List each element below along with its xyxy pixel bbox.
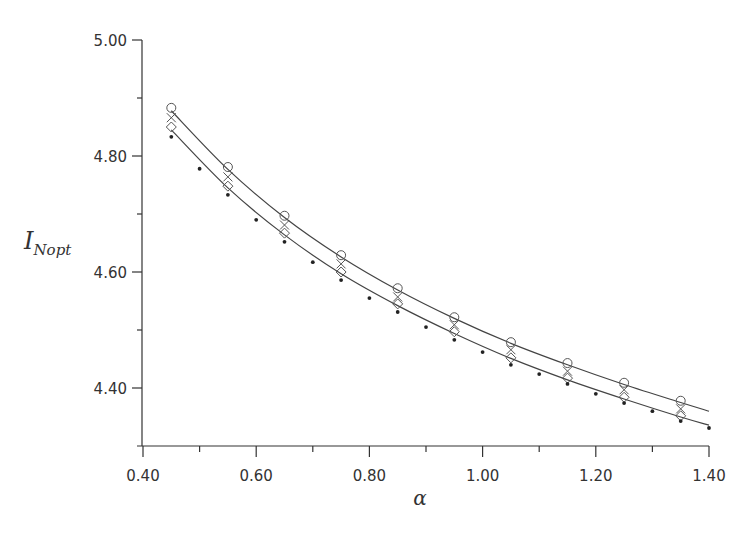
dot-marker <box>537 372 541 376</box>
dot-marker <box>254 218 258 222</box>
dot-marker <box>509 363 513 367</box>
cross-marker <box>223 172 232 181</box>
y-tick-label: 5.00 <box>94 32 127 50</box>
diamond-marker <box>280 228 290 238</box>
y-tick-label: 4.60 <box>94 264 127 282</box>
y-axis-title: INopt <box>23 227 72 259</box>
x-tick-label: 0.60 <box>239 467 272 485</box>
dot-marker <box>622 401 626 405</box>
diamond-marker <box>223 181 233 191</box>
dot-marker <box>594 392 598 396</box>
y-axis-title-subscript: Nopt <box>32 241 72 259</box>
x-tick-label: 0.80 <box>353 467 386 485</box>
data-markers <box>166 103 711 430</box>
dot-marker <box>226 193 230 197</box>
y-tick-label: 4.40 <box>94 380 127 398</box>
dot-marker <box>566 382 570 386</box>
dot-marker <box>198 167 202 171</box>
dot-marker <box>368 296 372 300</box>
dot-marker <box>707 426 711 430</box>
dot-marker <box>396 310 400 314</box>
cross-marker <box>167 113 176 122</box>
upper-fit-curve <box>171 111 709 411</box>
y-axis-title-main: I <box>23 227 34 255</box>
fit-curves <box>171 111 709 425</box>
x-axis-title: α <box>413 486 427 510</box>
circle-marker <box>676 396 685 405</box>
y-tick-label: 4.80 <box>94 148 127 166</box>
dot-marker <box>169 135 173 139</box>
dot-marker <box>481 350 485 354</box>
chart-canvas: 0.400.600.801.001.201.404.404.604.805.00… <box>0 0 756 533</box>
x-tick-label: 1.20 <box>579 467 612 485</box>
dot-marker <box>452 338 456 342</box>
dot-marker <box>651 409 655 413</box>
axes: 0.400.600.801.001.201.404.404.604.805.00 <box>94 32 726 485</box>
dot-marker <box>311 260 315 264</box>
x-tick-label: 1.00 <box>466 467 499 485</box>
dot-marker <box>283 240 287 244</box>
cross-marker <box>393 292 402 301</box>
x-tick-label: 0.40 <box>126 467 159 485</box>
x-tick-label: 1.40 <box>692 467 725 485</box>
dot-marker <box>424 325 428 329</box>
dot-marker <box>339 278 343 282</box>
dot-marker <box>679 419 683 423</box>
